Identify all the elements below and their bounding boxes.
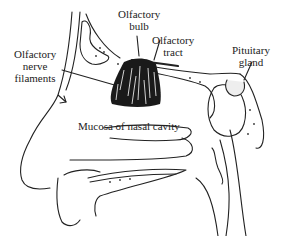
label-line: Pituitary [232, 44, 270, 56]
label-olfactory-nerve-filaments: Olfactory nerve filaments [14, 48, 56, 84]
label-line: filaments [14, 72, 56, 84]
label-line: tract [152, 46, 194, 58]
label-line: nerve [14, 60, 56, 72]
label-line: Mucosa of nasal cavity [78, 120, 180, 132]
cribriform-plate [150, 66, 240, 74]
label-line: Olfactory [14, 48, 56, 60]
label-olfactory-tract: Olfactory tract [152, 34, 194, 58]
olfactory-diagram: Olfactory bulb Olfactory tract Olfactory… [0, 0, 282, 236]
label-line: Olfactory [152, 34, 194, 46]
leader-bulb [137, 36, 139, 56]
label-mucosa: Mucosa of nasal cavity [78, 120, 180, 132]
label-pituitary-gland: Pituitary gland [232, 44, 270, 68]
frontal-sinus [80, 21, 109, 64]
turbinate-middle [70, 138, 192, 160]
label-olfactory-bulb: Olfactory bulb [118, 8, 160, 32]
anatomy-drawing [0, 0, 282, 236]
hard-palate [88, 169, 186, 216]
label-line: Olfactory [118, 8, 160, 20]
label-line: bulb [118, 20, 160, 32]
olfactory-bulb-mass [111, 58, 161, 107]
label-line: gland [232, 56, 270, 68]
pituitary-gland-shape [226, 80, 245, 96]
